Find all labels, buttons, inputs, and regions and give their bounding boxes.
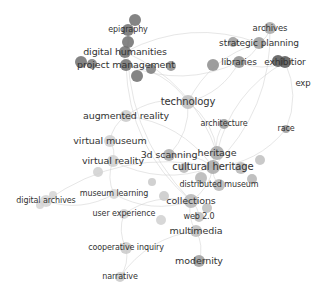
node-label-narrative[interactable]: narrative: [102, 273, 137, 281]
edge-narrative-multimedia: [120, 231, 196, 277]
node-label-cooperative-inquiry[interactable]: cooperative inquiry: [88, 244, 164, 252]
node-dot[interactable]: [148, 178, 156, 186]
edge-exhibition-race: [285, 62, 293, 129]
node-label-3d-scanning[interactable]: 3d scanning: [141, 150, 198, 160]
node-dot[interactable]: [255, 155, 265, 165]
node-label-user-experience[interactable]: user experience: [93, 210, 156, 218]
node-label-race[interactable]: race: [277, 125, 294, 133]
node-label-technology[interactable]: technology: [161, 97, 216, 107]
node-label-heritage[interactable]: heritage: [197, 148, 236, 158]
node-label-digital-humanities[interactable]: digital humanities: [83, 47, 167, 57]
edge-technology-3d-scanning: [169, 102, 188, 155]
node-label-museum-learning[interactable]: museum learning: [80, 190, 149, 198]
node-label-augmented-reality[interactable]: augmented reality: [83, 111, 169, 121]
node-dot[interactable]: [131, 70, 143, 82]
node-label-project-management[interactable]: project management: [77, 60, 175, 70]
node-label-distributed-museum[interactable]: distributed museum: [180, 181, 259, 189]
node-label-architecture[interactable]: architecture: [200, 120, 247, 128]
node-label-exp[interactable]: exp: [295, 79, 310, 88]
node-label-cultural-heritage[interactable]: cultural heritage: [172, 162, 253, 172]
node-label-virtual-reality[interactable]: virtual reality: [82, 156, 144, 166]
node-label-exhibition[interactable]: exhibitior: [264, 58, 305, 67]
edge-strategic-planning-technology: [188, 43, 259, 102]
node-label-modernity[interactable]: modernity: [175, 256, 223, 266]
node-dot[interactable]: [207, 59, 219, 71]
edge-exhibition-heritage: [217, 62, 285, 153]
node-dot[interactable]: [156, 215, 166, 225]
node-label-libraries[interactable]: libraries: [221, 58, 256, 67]
node-label-epigraphy[interactable]: epigraphy: [108, 26, 147, 34]
node-label-digital-archives[interactable]: digital archives: [16, 197, 75, 205]
node-label-web-2-0[interactable]: web 2.0: [183, 213, 214, 221]
node-label-collections[interactable]: collections: [166, 196, 215, 206]
node-dot[interactable]: [93, 167, 103, 177]
node-label-strategic-planning[interactable]: strategic planning: [219, 39, 299, 48]
node-label-virtual-museum[interactable]: virtual museum: [73, 136, 146, 146]
edge-archives-cultural-heritage: [213, 28, 270, 167]
node-label-archives[interactable]: archives: [253, 24, 288, 33]
node-label-multimedia[interactable]: multimedia: [170, 226, 223, 236]
